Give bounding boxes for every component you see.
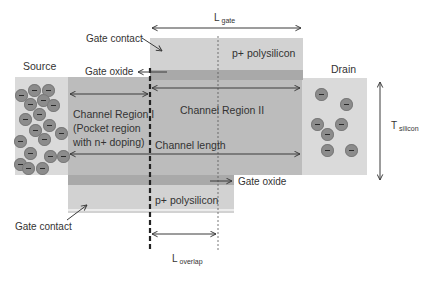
channel-region-2-label: Channel Region II: [180, 105, 264, 116]
gate-contact-top-label: Gate contact: [86, 34, 143, 44]
gate-oxide-bottom-label: Gate oxide: [238, 177, 286, 187]
gate-oxide-top-label: Gate oxide: [85, 67, 133, 77]
poly-top-label: p+ polysilicon: [232, 48, 295, 59]
channel-region-1-line3: with n+ doping): [73, 137, 145, 148]
channel-length-label: Channel length: [155, 140, 226, 151]
t-silicon-label: Tsilicon: [391, 121, 419, 131]
t-silicon-main: T: [391, 120, 397, 131]
gate-contact-bottom-pointer: [67, 205, 87, 220]
channel-region-1-line2: (Pocket region: [73, 123, 141, 134]
gate-contact-bottom-label: Gate contact: [15, 222, 72, 232]
gate-contact-top-pointer: [142, 38, 162, 51]
l-overlap-sub: overlap: [180, 258, 203, 265]
drain-label: Drain: [331, 64, 356, 75]
source-label: Source: [23, 61, 56, 72]
l-gate-main: L: [214, 12, 220, 23]
channel-region-1-line1: Channel Region I: [73, 109, 154, 120]
l-gate-label: Lgate: [214, 13, 235, 23]
l-overlap-main: L: [172, 253, 178, 264]
l-overlap-label: Loverlap: [172, 254, 203, 264]
poly-bottom-label: p+ polysilicon: [155, 195, 218, 206]
t-silicon-sub: silicon: [399, 125, 418, 132]
l-gate-sub: gate: [222, 17, 236, 24]
